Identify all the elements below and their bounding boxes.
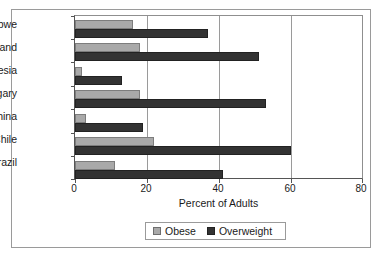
ytick-mark-3 xyxy=(71,86,75,87)
bar-obese-zimbabwe xyxy=(75,20,133,29)
bar-overweight-china xyxy=(75,123,143,132)
xtick-label-80: 80 xyxy=(341,183,381,194)
x-axis-title: Percent of Adults xyxy=(74,197,363,209)
bar-obese-brazil xyxy=(75,161,115,170)
bar-overweight-poland xyxy=(75,52,259,61)
ytick-mark-4 xyxy=(71,109,75,110)
bar-obese-indonesia xyxy=(75,67,82,76)
ytick-mark-5 xyxy=(71,133,75,134)
bar-obese-poland xyxy=(75,43,140,52)
bar-obese-china xyxy=(75,114,86,123)
bar-overweight-brazil xyxy=(75,170,223,179)
legend-entry-overweight[interactable]: Overweight xyxy=(207,225,278,237)
chart-figure: Zimbabwe Poland Indonesia Hungary China … xyxy=(0,0,385,260)
bar-obese-chile xyxy=(75,137,154,146)
ytick-mark-6 xyxy=(71,156,75,157)
gridline-60 xyxy=(291,16,292,178)
ytick-mark-2 xyxy=(71,62,75,63)
legend-swatch-overweight-icon xyxy=(207,227,215,235)
ytick-mark-1 xyxy=(71,39,75,40)
chart-legend: Obese Overweight xyxy=(145,222,286,240)
legend-label-overweight: Overweight xyxy=(219,225,272,237)
ytick-mark-0 xyxy=(71,16,75,17)
ytick-label-zimbabwe: Zimbabwe xyxy=(0,18,17,30)
bar-overweight-zimbabwe xyxy=(75,29,208,38)
bar-obese-hungary xyxy=(75,90,140,99)
xtick-label-20: 20 xyxy=(126,183,166,194)
ytick-label-indonesia: Indonesia xyxy=(0,64,17,76)
ytick-label-poland: Poland xyxy=(0,41,17,53)
plot-area xyxy=(74,15,363,179)
ytick-label-brazil: Brazil xyxy=(0,156,17,168)
legend-label-obese: Obese xyxy=(165,225,196,237)
bar-overweight-indonesia xyxy=(75,76,122,85)
bar-overweight-hungary xyxy=(75,99,266,108)
bar-overweight-chile xyxy=(75,146,291,155)
xtick-label-0: 0 xyxy=(54,183,94,194)
legend-swatch-obese-icon xyxy=(153,227,161,235)
ytick-label-china: China xyxy=(0,110,17,122)
ytick-label-hungary: Hungary xyxy=(0,87,17,99)
legend-entry-obese[interactable]: Obese xyxy=(153,225,202,237)
xtick-label-40: 40 xyxy=(198,183,238,194)
xtick-label-60: 60 xyxy=(270,183,310,194)
ytick-label-chile: Chile xyxy=(0,133,17,145)
